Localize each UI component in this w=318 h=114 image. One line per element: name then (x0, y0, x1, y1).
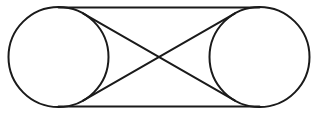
left-circle (9, 7, 109, 107)
right-circle (210, 7, 310, 107)
belt-diagram (0, 0, 318, 114)
diagram-canvas (0, 0, 318, 114)
